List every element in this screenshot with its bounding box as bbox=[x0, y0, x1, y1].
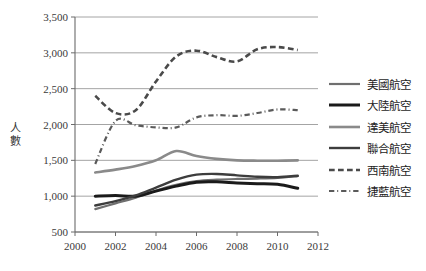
y-axis-title-char-1: 人 bbox=[7, 122, 23, 135]
x-tick-label: 2008 bbox=[226, 240, 249, 252]
y-tick-label: 1,500 bbox=[43, 154, 68, 166]
y-tick-label: 2,500 bbox=[43, 83, 68, 95]
legend-swatch-icon bbox=[329, 165, 360, 175]
legend-item-label: 美國航空 bbox=[367, 76, 411, 92]
x-tick-label: 2010 bbox=[267, 240, 290, 252]
legend-swatch-icon bbox=[329, 122, 360, 132]
legend-swatch-icon bbox=[329, 79, 360, 89]
legend-item-2[interactable]: 大陸航空 bbox=[329, 95, 425, 117]
y-tick-label: 3,500 bbox=[43, 11, 68, 23]
legend-swatch-icon bbox=[329, 143, 360, 153]
y-axis-title: 人 數 bbox=[7, 122, 23, 148]
y-tick-label: 1,000 bbox=[43, 190, 68, 202]
legend-item-4[interactable]: 聯合航空 bbox=[329, 138, 425, 160]
x-tick-label: 2012 bbox=[307, 240, 329, 252]
legend-swatch-icon bbox=[329, 186, 360, 196]
legend-item-5[interactable]: 西南航空 bbox=[329, 159, 425, 181]
y-tick-labels: 3,5003,0002,5002,0001,5001,000500 bbox=[43, 11, 68, 238]
x-tick-label: 2006 bbox=[186, 240, 209, 252]
y-axis-title-char-2: 數 bbox=[7, 135, 23, 148]
x-tick-label: 2004 bbox=[145, 240, 168, 252]
x-tick-label: 2002 bbox=[105, 240, 127, 252]
x-tick-labels: 2000200220042006200820102012 bbox=[64, 240, 329, 252]
legend-item-label: 聯合航空 bbox=[367, 140, 411, 156]
legend-item-label: 大陸航空 bbox=[367, 97, 411, 113]
data-series-layer bbox=[95, 47, 298, 209]
legend-item-3[interactable]: 達美航空 bbox=[329, 116, 425, 138]
x-tick-label: 2000 bbox=[64, 240, 87, 252]
series-line-2 bbox=[95, 182, 298, 197]
legend-item-label: 捷藍航空 bbox=[367, 183, 411, 199]
legend-item-1[interactable]: 美國航空 bbox=[329, 73, 425, 95]
gridlines bbox=[75, 17, 318, 232]
y-tick-label: 2,000 bbox=[43, 119, 68, 131]
legend-item-label: 西南航空 bbox=[367, 162, 411, 178]
y-tick-label: 500 bbox=[52, 226, 69, 238]
legend-item-label: 達美航空 bbox=[367, 119, 411, 135]
legend-swatch-icon bbox=[329, 100, 360, 110]
series-line-5 bbox=[95, 47, 298, 115]
chart-legend: 美國航空大陸航空達美航空聯合航空西南航空捷藍航空 bbox=[329, 73, 425, 202]
y-tick-label: 3,000 bbox=[43, 47, 68, 59]
series-line-3 bbox=[95, 151, 298, 173]
legend-item-6[interactable]: 捷藍航空 bbox=[329, 181, 425, 203]
line-chart: 3,5003,0002,5002,0001,5001,000500 200020… bbox=[0, 0, 426, 271]
